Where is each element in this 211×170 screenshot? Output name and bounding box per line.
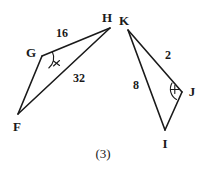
vertex-label-G: G (26, 46, 36, 59)
segment-FH (18, 28, 110, 114)
vertex-label-I: I (162, 137, 167, 150)
figure-caption: (3) (95, 147, 110, 160)
segment-GF (18, 56, 42, 114)
geometry-canvas (0, 0, 211, 170)
measure-label-KJ: 2 (165, 49, 171, 61)
triangle-FGH (18, 28, 110, 114)
vertex-label-H: H (102, 11, 112, 24)
vertex-label-J: J (189, 85, 196, 98)
vertex-label-K: K (119, 14, 129, 27)
angle-mark-G (49, 52, 60, 68)
measure-label-GH: 16 (56, 27, 68, 39)
geometry-figure: F G H K J I 16 32 2 8 (3) (0, 0, 211, 170)
measure-label-FH: 32 (73, 72, 85, 84)
vertex-label-F: F (13, 120, 21, 133)
measure-label-KI: 8 (133, 79, 139, 91)
angle-mark-J (170, 83, 179, 100)
